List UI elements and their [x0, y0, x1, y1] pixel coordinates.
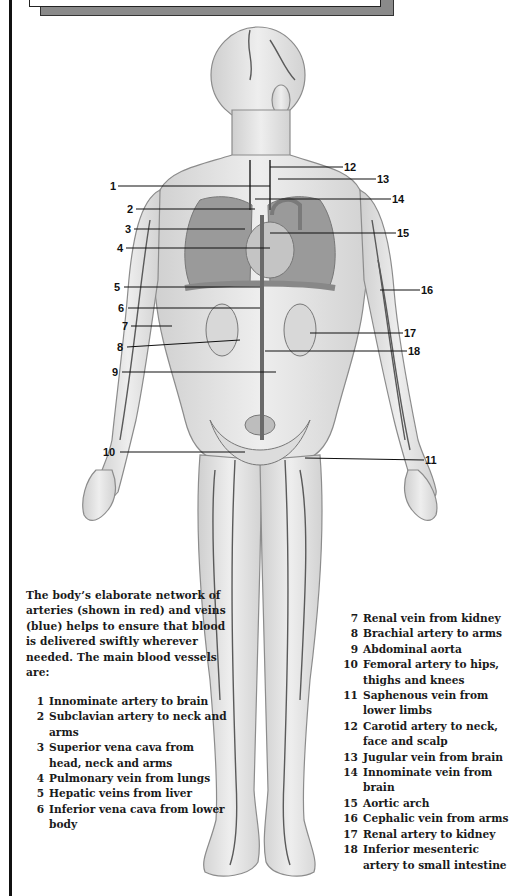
intro-paragraph: The body’s elaborate network of arteries…	[26, 588, 226, 680]
legend-item-1: 1Innominate artery to brain	[30, 694, 230, 709]
callout-18: 18	[408, 345, 420, 357]
callout-16: 16	[421, 284, 433, 296]
legend-item-2: 2Subclavian artery to neck and arms	[30, 709, 230, 740]
callout-1: 1	[110, 180, 116, 192]
legend-item-18: 18Inferior mesenteric artery to small in…	[342, 842, 514, 873]
callout-12: 12	[344, 161, 356, 173]
legend-item-17: 17Renal artery to kidney	[342, 827, 514, 842]
callout-15: 15	[397, 227, 409, 239]
legend-list-right: 7Renal vein from kidney 8Brachial artery…	[342, 611, 514, 873]
callout-3: 3	[125, 223, 131, 235]
callout-6: 6	[118, 302, 124, 314]
legend-item-6: 6Inferior vena cava from lower body	[30, 802, 230, 833]
legend-item-9: 9Abdominal aorta	[342, 642, 514, 657]
legend-item-15: 15Aortic arch	[342, 796, 514, 811]
callout-5: 5	[114, 281, 120, 293]
legend-item-7: 7Renal vein from kidney	[342, 611, 514, 626]
legend-item-3: 3Superior vena cava from head, neck and …	[30, 740, 230, 771]
callout-14: 14	[392, 193, 404, 205]
legend-item-10: 10Femoral artery to hips, thighs and kne…	[342, 657, 514, 688]
legend-item-16: 16Cephalic vein from arms	[342, 811, 514, 826]
callout-4: 4	[117, 242, 123, 254]
legend-item-14: 14Innominate vein from brain	[342, 765, 514, 796]
callout-13: 13	[377, 173, 389, 185]
callout-11: 11	[425, 454, 437, 466]
callout-7: 7	[122, 320, 128, 332]
callout-8: 8	[117, 341, 123, 353]
legend-item-5: 5Hepatic veins from liver	[30, 786, 230, 801]
legend-item-4: 4Pulmonary vein from lungs	[30, 771, 230, 786]
callout-17: 17	[404, 327, 416, 339]
legend-list-left: 1Innominate artery to brain 2Subclavian …	[30, 694, 230, 833]
legend-item-12: 12Carotid artery to neck, face and scalp	[342, 719, 514, 750]
callout-9: 9	[112, 366, 118, 378]
legend-item-8: 8Brachial artery to arms	[342, 626, 514, 641]
callout-10: 10	[103, 446, 115, 458]
callout-2: 2	[127, 203, 133, 215]
legend-item-13: 13Jugular vein from brain	[342, 750, 514, 765]
legend-item-11: 11Saphenous vein from lower limbs	[342, 688, 514, 719]
